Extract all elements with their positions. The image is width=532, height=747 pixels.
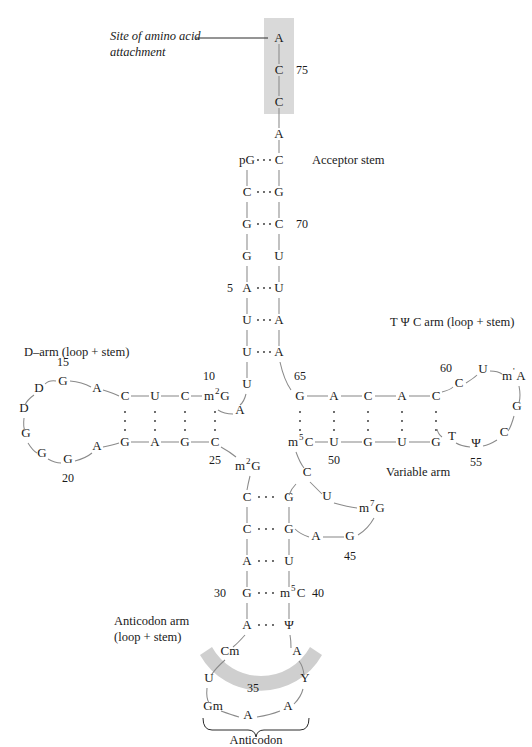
base-a67: A <box>274 312 284 327</box>
base-d16: D <box>34 380 43 395</box>
base-m1a58: m ' A <box>502 366 526 383</box>
number-50: 50 <box>328 453 340 467</box>
base-u41: U <box>284 553 294 568</box>
base-t54: T <box>448 428 456 443</box>
base-psi39: Ψ <box>284 617 294 632</box>
base-a29: A <box>242 553 252 568</box>
base-m7g46: m 7 G <box>359 498 385 515</box>
svg-text:G: G <box>375 500 384 515</box>
base-u68: U <box>274 280 284 295</box>
svg-text:m: m <box>204 388 214 403</box>
base-a36: A <box>283 698 293 713</box>
base-a14: A <box>92 380 102 395</box>
base-c75: C <box>275 62 284 77</box>
number-30: 30 <box>214 586 226 600</box>
number-55: 55 <box>470 455 482 469</box>
base-a23: A <box>150 434 160 449</box>
number-10: 10 <box>203 369 215 383</box>
base-a5: A <box>242 280 252 295</box>
base-g53: G <box>431 434 440 449</box>
base-g51: G <box>363 434 372 449</box>
number-5: 5 <box>227 281 233 295</box>
base-g65: G <box>295 388 304 403</box>
number-35: 35 <box>247 681 259 695</box>
amino-acid-site-label-line1: Site of amino acid <box>110 29 201 43</box>
anticodon-arm-label-line1: Anticodon arm <box>114 614 190 628</box>
base-c2: C <box>243 184 252 199</box>
acceptor-hbonds <box>257 159 271 353</box>
svg-text:m: m <box>359 500 369 515</box>
base-u69: U <box>274 248 284 263</box>
base-g71: G <box>274 184 283 199</box>
d-arm-label: D–arm (loop + stem) <box>24 345 129 359</box>
svg-text:m: m <box>280 585 290 600</box>
svg-text:G: G <box>251 458 260 473</box>
base-pg1: pG <box>239 152 255 167</box>
base-g15: G <box>58 373 67 388</box>
base-a38: A <box>292 643 302 658</box>
base-u52: U <box>397 434 407 449</box>
base-y37: Y <box>300 670 310 685</box>
base-m5c40: m 5 C <box>280 583 305 600</box>
base-a21: A <box>92 438 102 453</box>
base-c72: C <box>275 152 284 167</box>
trna-diagram-canvas: A C C A 75 pG C G G A U U C G C U U A A <box>0 0 532 747</box>
base-g24: G <box>180 434 189 449</box>
bond-25-26 <box>221 447 236 457</box>
base-a66: A <box>274 344 284 359</box>
base-a35: A <box>243 707 253 722</box>
base-g43: G <box>284 489 293 504</box>
bond-26-27 <box>247 476 250 490</box>
base-a62: A <box>397 388 407 403</box>
anticodon-stem-hbonds <box>258 496 274 626</box>
number-25: 25 <box>209 453 221 467</box>
svg-text:G: G <box>220 388 229 403</box>
acceptor-stem-label: Acceptor stem <box>312 153 385 167</box>
base-m2g26: m 2 G <box>235 456 261 473</box>
base-u50: U <box>329 434 339 449</box>
number-40: 40 <box>312 586 324 600</box>
base-g22: G <box>120 434 129 449</box>
base-a64: A <box>329 388 339 403</box>
base-c11: C <box>181 388 190 403</box>
base-d17: D <box>19 400 28 415</box>
d-stem-hbonds <box>124 411 216 431</box>
base-c48: C <box>303 464 312 479</box>
svg-text:A: A <box>516 368 526 383</box>
base-c61: C <box>432 388 441 403</box>
number-70: 70 <box>296 217 308 231</box>
base-g30: G <box>242 585 251 600</box>
trna-cloverleaf-figure: A C C A 75 pG C G G A U U C G C U U A A <box>0 0 532 747</box>
anticodon-label: Anticodon <box>230 733 284 747</box>
base-u59: U <box>478 361 488 376</box>
number-20: 20 <box>62 471 74 485</box>
base-c27: C <box>243 489 252 504</box>
base-c63: C <box>364 388 373 403</box>
base-g4: G <box>242 248 251 263</box>
base-g19: G <box>37 445 46 460</box>
amino-acid-site-label-line2: attachment <box>110 45 166 59</box>
base-g57: G <box>512 398 521 413</box>
svg-text:m: m <box>288 434 298 449</box>
variable-arm-label: Variable arm <box>386 465 450 479</box>
base-u47: U <box>322 488 332 503</box>
svg-text:': ' <box>513 366 515 376</box>
bond-66-65 <box>280 362 291 390</box>
number-60: 60 <box>440 361 452 375</box>
base-a31: A <box>242 617 252 632</box>
base-a44: A <box>311 528 321 543</box>
base-cm32: Cm <box>221 643 240 658</box>
base-c25: C <box>211 434 220 449</box>
svg-text:C: C <box>305 434 314 449</box>
svg-text:5: 5 <box>291 583 296 593</box>
svg-text:2: 2 <box>215 386 220 396</box>
number-45: 45 <box>344 549 356 563</box>
base-g3: G <box>242 216 251 231</box>
base-c56: C <box>500 424 509 439</box>
base-g45: G <box>345 528 354 543</box>
base-c70: C <box>275 216 284 231</box>
base-psi55: Ψ <box>471 435 481 450</box>
number-65: 65 <box>294 369 306 383</box>
base-g20: G <box>63 451 72 466</box>
svg-text:m: m <box>235 458 245 473</box>
